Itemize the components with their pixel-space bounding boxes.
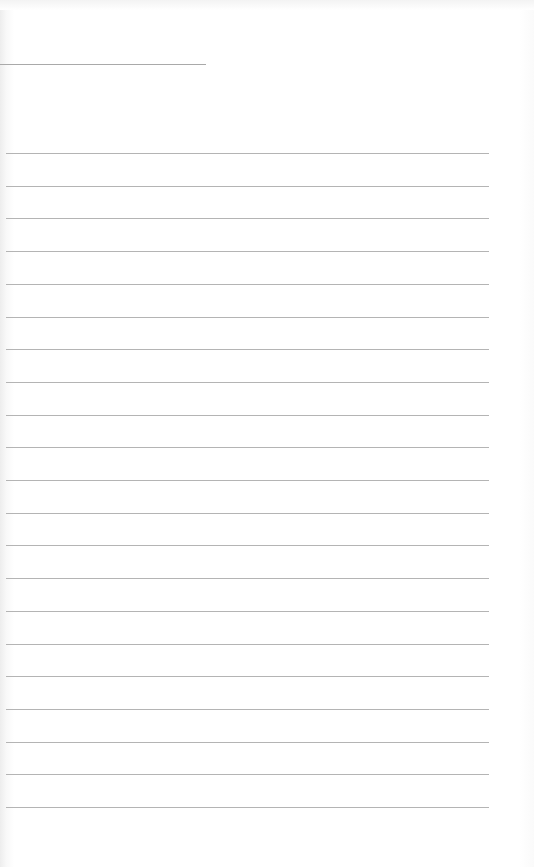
ruled-line bbox=[6, 774, 489, 775]
ruled-line bbox=[6, 415, 489, 416]
ruled-line bbox=[6, 578, 489, 579]
ruled-line bbox=[6, 382, 489, 383]
ruled-line bbox=[6, 742, 489, 743]
ruled-line bbox=[6, 447, 489, 448]
ruled-line bbox=[6, 317, 489, 318]
notebook-page bbox=[0, 0, 534, 867]
ruled-line bbox=[6, 545, 489, 546]
ruled-line bbox=[6, 513, 489, 514]
ruled-line bbox=[6, 349, 489, 350]
ruled-line bbox=[6, 676, 489, 677]
ruled-line bbox=[6, 709, 489, 710]
ruled-line bbox=[6, 611, 489, 612]
ruled-line bbox=[6, 251, 489, 252]
scan-bleed-through bbox=[0, 0, 534, 10]
ruled-line bbox=[6, 186, 489, 187]
ruled-line bbox=[6, 644, 489, 645]
ruled-line bbox=[6, 480, 489, 481]
ruled-line bbox=[6, 284, 489, 285]
title-line bbox=[0, 64, 206, 65]
ruled-line bbox=[6, 807, 489, 808]
ruled-line bbox=[6, 153, 489, 154]
ruled-line bbox=[6, 218, 489, 219]
